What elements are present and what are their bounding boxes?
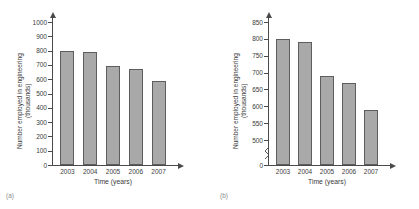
x-axis-arrow-a: [178, 163, 184, 169]
y-tick-label: 500: [234, 137, 263, 144]
x-axis-line-a: [52, 165, 178, 166]
y-tick-label: 500: [18, 90, 47, 97]
y-axis-line-a: [52, 18, 53, 165]
y-tick: [264, 123, 268, 124]
y-tick: [48, 94, 52, 95]
y-tick-label: 1000: [18, 19, 47, 26]
y-tick: [264, 73, 268, 74]
bar: [320, 76, 334, 165]
y-tick: [264, 140, 268, 141]
y-tick-label: 650: [234, 86, 263, 93]
y-axis-arrow-b: [266, 12, 272, 18]
y-tick: [48, 122, 52, 123]
x-axis-title-a: Time (years): [36, 178, 190, 185]
y-tick-label: 300: [18, 119, 47, 126]
y-tick-label: 200: [18, 133, 47, 140]
x-axis-title-b: Time (years): [252, 178, 402, 185]
y-tick: [48, 136, 52, 137]
chart-panel-a: Number employed in engineering (thousand…: [0, 0, 209, 209]
y-tick-label: 750: [234, 52, 263, 59]
y-tick-label: 700: [18, 61, 47, 68]
y-tick: [48, 151, 52, 152]
y-tick: [264, 106, 268, 107]
y-tick: [48, 65, 52, 66]
axis-break-icon: [264, 146, 273, 160]
y-axis-arrow-a: [50, 12, 56, 18]
bar: [152, 81, 166, 165]
y-tick: [264, 22, 268, 23]
y-axis-line-b: [268, 18, 269, 165]
bar: [60, 51, 74, 165]
y-tick-label: 850: [234, 19, 263, 26]
x-axis-line-b: [268, 165, 390, 166]
bar: [342, 83, 356, 165]
y-tick: [48, 22, 52, 23]
panel-caption-b: (b): [220, 192, 228, 199]
y-tick: [264, 56, 268, 57]
y-tick: [48, 165, 52, 166]
x-tick-label: 2007: [143, 168, 175, 175]
bar: [83, 52, 97, 165]
chart-panel-b: Number employed in engineering (thousand…: [210, 0, 419, 209]
y-tick-label: 700: [234, 69, 263, 76]
y-tick-label: 100: [18, 147, 47, 154]
y-tick: [48, 51, 52, 52]
y-tick-label: 400: [18, 104, 47, 111]
y-tick: [264, 165, 268, 166]
y-tick-label: 0: [234, 162, 263, 169]
bar: [364, 110, 378, 165]
y-tick: [264, 39, 268, 40]
bar: [129, 69, 143, 165]
bar: [298, 42, 312, 165]
bar: [106, 66, 120, 165]
y-tick-label: 550: [234, 120, 263, 127]
y-tick-label: 600: [18, 76, 47, 83]
y-tick-label: 900: [18, 33, 47, 40]
y-tick-label: 600: [234, 103, 263, 110]
x-tick-label: 2007: [355, 168, 387, 175]
panel-caption-a: (a): [6, 192, 14, 199]
y-tick: [48, 108, 52, 109]
y-tick: [48, 36, 52, 37]
y-tick: [48, 79, 52, 80]
y-tick-label: 0: [18, 162, 47, 169]
y-tick-label: 800: [234, 35, 263, 42]
x-axis-arrow-b: [390, 163, 396, 169]
bar: [276, 39, 290, 165]
y-tick-label: 800: [18, 47, 47, 54]
y-tick: [264, 89, 268, 90]
